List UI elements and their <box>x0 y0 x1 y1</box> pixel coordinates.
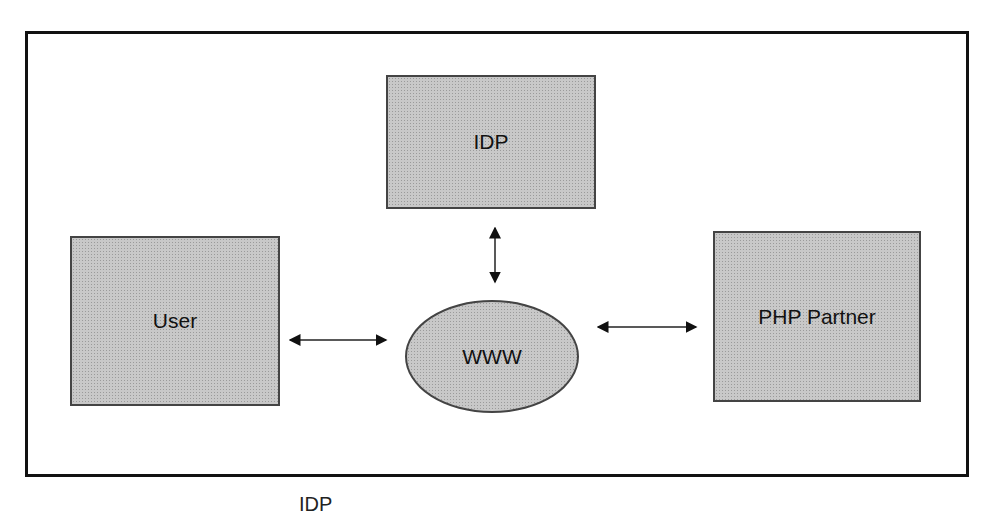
idp-label: IDP <box>473 130 508 154</box>
www-label: WWW <box>462 345 521 369</box>
caption-text: IDP <box>299 493 332 515</box>
user-node: User <box>70 236 280 406</box>
partner-node: PHP Partner <box>713 231 921 402</box>
figure-caption-clipped: Figure x.x Federation with the IDP <box>30 493 332 515</box>
idp-node: IDP <box>386 75 596 209</box>
partner-label: PHP Partner <box>758 305 876 329</box>
user-label: User <box>153 309 197 333</box>
www-node: WWW <box>405 300 579 413</box>
